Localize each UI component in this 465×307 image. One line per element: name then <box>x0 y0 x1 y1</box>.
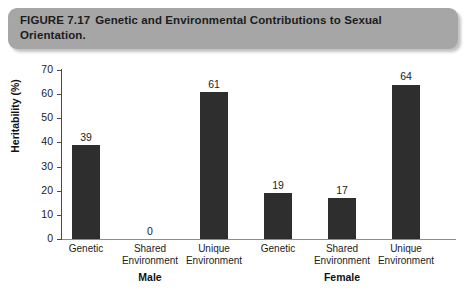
y-tick-label: 50 <box>41 111 53 123</box>
y-tick-mark <box>57 239 62 240</box>
y-tick-label: 30 <box>41 160 53 172</box>
bar <box>264 193 292 239</box>
bar-value-label: 39 <box>62 131 110 143</box>
category-label: UniqueEnvironment <box>363 243 449 266</box>
bar-value-label: 61 <box>190 78 238 90</box>
y-tick-label: 10 <box>41 208 53 220</box>
category-label-line1: Unique <box>363 243 449 255</box>
plot-area <box>62 70 456 239</box>
figure-container: FIGURE 7.17Genetic and Environmental Con… <box>0 0 465 307</box>
bar-value-label: 64 <box>382 70 430 82</box>
y-tick-label: 40 <box>41 135 53 147</box>
y-axis-title: Heritability (%) <box>9 56 21 176</box>
bar <box>392 85 420 240</box>
bar-value-label: 19 <box>254 179 302 191</box>
category-label-line2: Environment <box>363 255 449 267</box>
bar-value-label: 17 <box>318 184 366 196</box>
bar <box>200 92 228 239</box>
group-label-male: Male <box>50 271 250 283</box>
bar <box>72 145 100 239</box>
y-tick-label: 20 <box>41 184 53 196</box>
figure-number: FIGURE 7.17 <box>20 14 90 26</box>
bar-value-label: 0 <box>126 225 174 237</box>
group-label-female: Female <box>242 271 442 283</box>
figure-caption-text: FIGURE 7.17Genetic and Environmental Con… <box>20 13 448 43</box>
category-label-line2: Environment <box>171 255 257 267</box>
bar <box>328 198 356 239</box>
x-axis-line <box>61 239 456 240</box>
figure-caption-banner: FIGURE 7.17Genetic and Environmental Con… <box>8 8 458 49</box>
y-tick-label: 70 <box>41 63 53 75</box>
y-tick-label: 60 <box>41 87 53 99</box>
